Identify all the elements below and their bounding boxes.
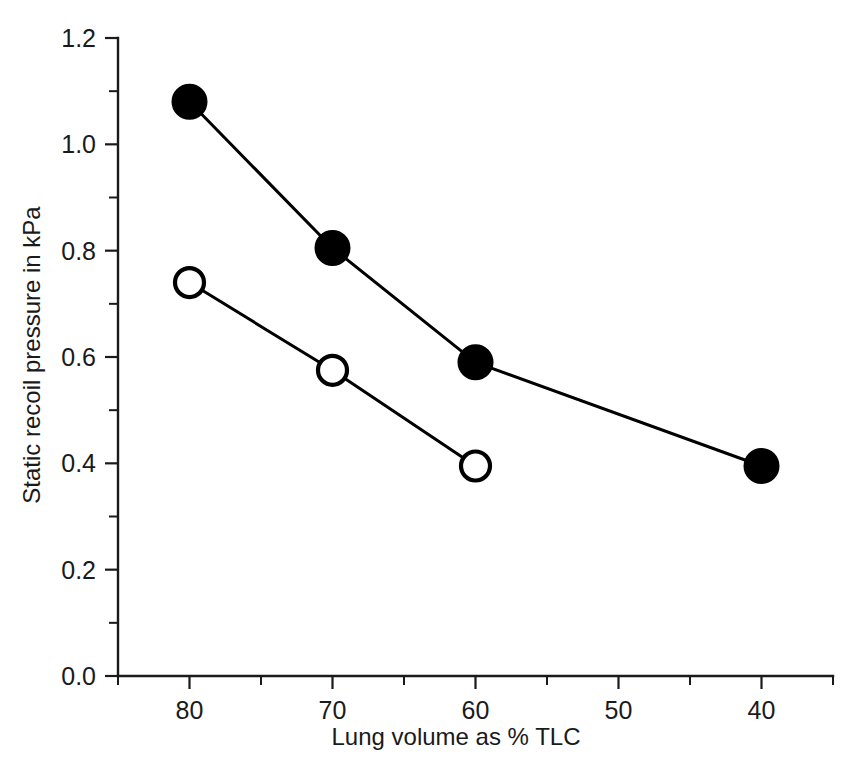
data-series-group <box>173 85 779 483</box>
data-point-filled <box>173 85 207 119</box>
chart-container: 0.00.20.40.60.81.01.28070605040 Static r… <box>0 0 861 771</box>
x-tick-label: 60 <box>462 696 490 724</box>
data-point-filled <box>745 449 779 483</box>
tick-labels-group: 0.00.20.40.60.81.01.28070605040 <box>61 24 775 724</box>
y-tick-label: 1.2 <box>61 24 96 52</box>
y-tick-label: 0.2 <box>61 556 96 584</box>
series-line-filled-circles <box>190 102 762 466</box>
x-tick-label: 80 <box>176 696 204 724</box>
y-tick-label: 1.0 <box>61 130 96 158</box>
data-point-filled <box>459 345 493 379</box>
data-point-filled <box>316 231 350 265</box>
y-axis-title: Static recoil pressure in kPa <box>18 206 45 504</box>
data-point-open <box>461 451 490 480</box>
y-tick-label: 0.4 <box>61 449 96 477</box>
x-axis-title: Lung volume as % TLC <box>331 723 580 750</box>
data-point-open <box>175 268 204 297</box>
y-tick-label: 0.0 <box>61 662 96 690</box>
chart-plot: 0.00.20.40.60.81.01.28070605040 Static r… <box>0 0 861 771</box>
x-tick-label: 70 <box>319 696 347 724</box>
data-point-open <box>318 356 347 385</box>
y-tick-label: 0.8 <box>61 237 96 265</box>
x-tick-label: 40 <box>748 696 776 724</box>
x-tick-label: 50 <box>605 696 633 724</box>
y-tick-label: 0.6 <box>61 343 96 371</box>
